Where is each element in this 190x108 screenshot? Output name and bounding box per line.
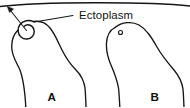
callout-leader-line [35,16,74,23]
vacuole-dot-cell-b [119,31,123,35]
cell-a-right-edge [34,21,87,107]
cell-a-left-edge [12,30,26,107]
direction-arrow-head [7,6,13,12]
cell-b-left-edge [106,28,119,108]
panel-letter-a: A [48,90,57,103]
callout-label: Ectoplasm [79,9,133,21]
figure-container: Ectoplasm A B [0,0,190,107]
figure-drawing: Ectoplasm A B [0,0,190,107]
panel-letter-b: B [151,90,160,103]
top-border-rule [0,3,190,7]
cell-b-right-edge [115,23,184,107]
